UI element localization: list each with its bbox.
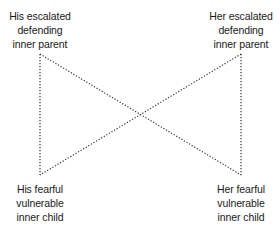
node-label-line: His escalated (0, 9, 95, 23)
node-label-line: Her fearful (186, 182, 280, 196)
node-label-line: defending (0, 23, 95, 37)
line-her-parent-to-his-child (40, 54, 241, 175)
node-label-line: inner child (0, 210, 95, 224)
node-label-line: inner parent (0, 37, 95, 51)
node-his-fearful-vulnerable-inner-child: His fearful vulnerable inner child (0, 182, 95, 224)
node-label-line: vulnerable (186, 196, 280, 210)
node-label-line: Her escalated (186, 9, 280, 23)
node-label-line: inner child (186, 210, 280, 224)
node-label-line: vulnerable (0, 196, 95, 210)
node-label-line: His fearful (0, 182, 95, 196)
node-her-fearful-vulnerable-inner-child: Her fearful vulnerable inner child (186, 182, 280, 224)
node-label-line: inner parent (186, 37, 280, 51)
node-her-escalated-defending-inner-parent: Her escalated defending inner parent (186, 9, 280, 51)
node-his-escalated-defending-inner-parent: His escalated defending inner parent (0, 9, 95, 51)
bowtie-diagram: His escalated defending inner parent Her… (0, 0, 280, 233)
node-label-line: defending (186, 23, 280, 37)
